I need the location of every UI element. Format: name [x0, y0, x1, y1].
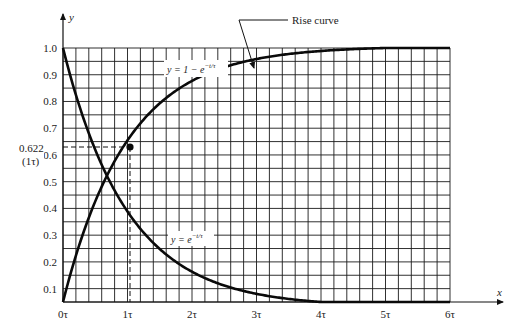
- x-tick-label: 5τ: [381, 308, 392, 320]
- y-tick-label: 0.4: [43, 202, 57, 214]
- x-tick-label: 0τ: [58, 308, 69, 320]
- chart-grid: [63, 48, 450, 302]
- y-tick-label: 0.8: [43, 95, 57, 107]
- marker-sub-label: (1τ): [22, 155, 40, 168]
- marker-point: [126, 143, 133, 150]
- x-tick-labels: 0τ1τ2τ3τ4τ5τ6τ: [58, 308, 456, 320]
- y-tick-labels: 0.10.20.30.40.50.60.70.80.91.0: [43, 42, 57, 295]
- rise-curve-callout-label: Rise curve: [292, 14, 339, 26]
- y-tick-label: 0.3: [43, 229, 57, 241]
- decay-equation-main: y = e: [170, 234, 192, 245]
- rise-equation-main: y = 1 − e: [166, 64, 205, 75]
- y-tick-label: 0.7: [43, 122, 57, 134]
- rise-equation-exponent: −t/τ: [204, 62, 216, 70]
- x-axis-label: x: [496, 286, 502, 298]
- y-tick-label: 0.9: [43, 69, 57, 81]
- x-tick-label: 3τ: [252, 308, 263, 320]
- decay-equation-exponent: −t/τ: [192, 232, 204, 240]
- marker-value-label: 0.622: [19, 142, 44, 154]
- x-tick-label: 6τ: [445, 308, 456, 320]
- y-tick-label: 0.1: [43, 283, 57, 295]
- y-axis-label: y: [68, 11, 74, 23]
- x-tick-label: 2τ: [187, 308, 198, 320]
- y-tick-label: 0.2: [43, 256, 57, 268]
- y-tick-label: 0.6: [43, 149, 57, 161]
- x-tick-label: 1τ: [123, 308, 134, 320]
- y-tick-label: 0.5: [43, 176, 57, 188]
- x-tick-label: 4τ: [316, 308, 327, 320]
- y-tick-label: 1.0: [43, 42, 57, 54]
- time-constant-chart: y x 0.10.20.30.40.50.60.70.80.91.0 0τ1τ2…: [0, 0, 520, 330]
